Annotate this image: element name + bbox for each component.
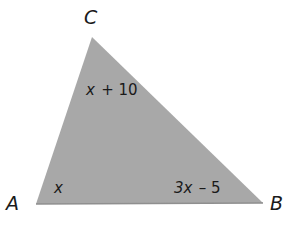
angle-b-variable: 3x [174,179,192,197]
angle-c-operator: + [101,81,114,99]
angle-a-variable: x [54,179,63,197]
vertex-label-c: C [84,8,97,27]
angle-expression-at-c: x + 10 [86,83,138,98]
vertex-label-b: B [270,194,283,213]
angle-c-constant: 10 [119,81,138,99]
angle-expression-at-a: x [54,181,63,196]
vertex-label-a: A [6,194,19,213]
angle-c-variable: x [86,81,95,99]
triangle-base-edge-ab [36,203,263,204]
triangle-shape [0,0,289,230]
diagram-canvas: C A B x + 10 x 3x – 5 [0,0,289,230]
angle-b-constant: 5 [211,179,221,197]
triangle-polygon [36,37,263,204]
angle-expression-at-b: 3x – 5 [174,181,221,196]
